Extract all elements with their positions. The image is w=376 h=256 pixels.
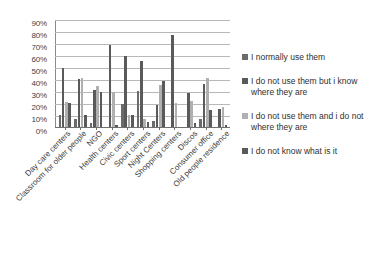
bar: [209, 110, 212, 127]
bar-group: [57, 20, 73, 127]
bars-container: [56, 20, 230, 127]
x-axis-tick: [221, 127, 222, 130]
bar: [143, 119, 146, 127]
legend-label: I do not use them but i know where they …: [251, 76, 374, 98]
y-axis-tick-label: 50%: [32, 68, 47, 76]
chart-legend: I normally use themI do not use them but…: [242, 52, 374, 170]
bar-group: [135, 20, 151, 127]
legend-label: I normally use them: [251, 52, 325, 63]
y-axis-tick-label: 20%: [32, 104, 47, 112]
bar: [93, 90, 96, 127]
plot-area: [55, 20, 230, 128]
bar: [128, 115, 131, 127]
legend-swatch-icon: [242, 54, 248, 60]
bar: [68, 103, 71, 127]
bar: [81, 78, 84, 127]
y-axis-tick-label: 80%: [32, 32, 47, 40]
bar-group: [151, 20, 167, 127]
bar: [194, 123, 197, 127]
legend-swatch-icon: [242, 78, 248, 84]
legend-label: I do not use them and i do not where the…: [251, 111, 374, 133]
bar: [171, 35, 174, 127]
bar: [137, 91, 140, 127]
y-axis-tick-label: 30%: [32, 92, 47, 100]
bar: [90, 123, 93, 127]
bar: [84, 115, 87, 127]
bar: [131, 115, 134, 127]
bar: [140, 61, 143, 127]
legend-label: I do not know what is it: [251, 146, 337, 157]
y-axis-tick-label: 90%: [32, 20, 47, 28]
bar-group: [88, 20, 104, 127]
y-axis-tick-label: 70%: [32, 44, 47, 52]
bar: [199, 119, 202, 127]
legend-item[interactable]: I do not use them but i know where they …: [242, 76, 374, 98]
y-axis-tick-label: 0%: [36, 128, 47, 136]
bar: [175, 103, 178, 127]
bar-group: [198, 20, 214, 127]
bar: [162, 81, 165, 127]
bar: [222, 107, 225, 127]
bar: [112, 92, 115, 127]
bar-chart-figure: 0%10%20%30%40%50%60%70%80%90% Day care c…: [0, 0, 376, 256]
y-axis-tick-label: 60%: [32, 56, 47, 64]
bar: [206, 78, 209, 127]
x-axis-tick: [206, 127, 207, 130]
bar: [203, 84, 206, 127]
bar: [59, 115, 62, 127]
bar: [218, 109, 221, 127]
bar: [190, 101, 193, 127]
bar: [65, 102, 68, 127]
bar: [115, 125, 118, 127]
bar-group: [213, 20, 229, 127]
bar: [100, 92, 103, 127]
bar: [78, 79, 81, 127]
bar-group: [73, 20, 89, 127]
legend-item[interactable]: I do not know what is it: [242, 146, 374, 157]
bar: [159, 85, 162, 127]
bar: [109, 45, 112, 127]
bar: [74, 119, 77, 127]
bar: [187, 93, 190, 127]
bar-group: [182, 20, 198, 127]
bar-group: [166, 20, 182, 127]
bar: [62, 68, 65, 127]
bar: [121, 104, 124, 127]
bar: [124, 56, 127, 127]
bar: [96, 86, 99, 127]
legend-swatch-icon: [242, 113, 248, 119]
bar: [156, 105, 159, 127]
bar-group: [104, 20, 120, 127]
bar-group: [120, 20, 136, 127]
legend-swatch-icon: [242, 148, 248, 154]
y-axis: 0%10%20%30%40%50%60%70%80%90%: [0, 14, 50, 134]
bar: [147, 122, 150, 127]
x-axis-label: Classroom for older people: [14, 129, 88, 203]
bar: [152, 121, 155, 127]
bar: [225, 125, 228, 127]
y-axis-tick-label: 40%: [32, 80, 47, 88]
legend-item[interactable]: I normally use them: [242, 52, 374, 63]
y-axis-tick-label: 10%: [32, 116, 47, 124]
legend-item[interactable]: I do not use them and i do not where the…: [242, 111, 374, 133]
